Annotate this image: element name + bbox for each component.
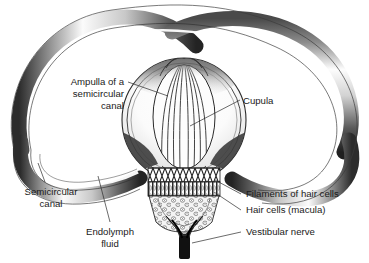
vestibular-anatomy-figure: Ampulla of a semicircular canal Cupula S…	[0, 0, 369, 263]
label-ampulla-line-3: canal	[101, 100, 124, 111]
label-ampulla-line-2: semicircular	[73, 88, 125, 99]
figure-canvas: Ampulla of a semicircular canal Cupula S…	[0, 0, 369, 263]
label-filaments: Filaments of hair cells	[246, 188, 339, 199]
label-vestibular-nerve: Vestibular nerve	[246, 226, 315, 237]
label-ampulla-line-1: Ampulla of a	[71, 76, 125, 87]
label-endolymph-line-1: Endolymph	[86, 226, 134, 237]
label-hair-cells-line-1: Hair cells (macula)	[246, 204, 325, 215]
label-semicircular-canal-line-1: Semicircular	[25, 186, 79, 197]
label-vestibular-nerve-line-1: Vestibular nerve	[246, 226, 315, 237]
hair-cell-band	[148, 182, 220, 196]
label-semicircular-canal-line-2: canal	[40, 198, 63, 209]
filament-band	[148, 168, 220, 182]
label-cupula-line-1: Cupula	[243, 95, 274, 106]
label-endolymph-line-2: fluid	[101, 238, 119, 249]
label-filaments-line-1: Filaments of hair cells	[246, 188, 339, 199]
label-cupula: Cupula	[243, 95, 274, 106]
label-hair-cells: Hair cells (macula)	[246, 204, 325, 215]
